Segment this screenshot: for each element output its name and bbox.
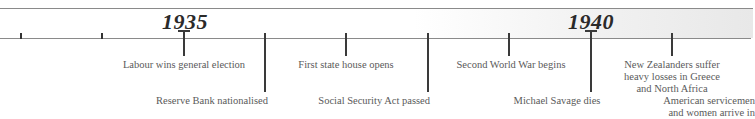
timeline-baseline [0,38,751,39]
event-label-line: New Zealanders suffer [624,59,720,71]
event-label-ww2-begins: Second World War begins [456,59,565,71]
event-label-line: and women arrive in [663,107,755,119]
timeline-tick [20,33,22,39]
timeline-header-band [0,8,753,38]
event-marker-line [590,30,592,92]
event-label-social-security-act: Social Security Act passed [318,95,430,107]
event-label-labour-wins: Labour wins general election [123,59,245,71]
timeline-tick [101,33,103,39]
event-marker-line [427,33,429,92]
event-label-nz-losses: New Zealanders suffer heavy losses in Gr… [624,59,720,95]
event-label-michael-savage-dies: Michael Savage dies [514,95,601,107]
event-label-american-servicemen: American servicemen and women arrive in [663,95,755,119]
event-label-reserve-bank: Reserve Bank nationalised [156,95,268,107]
event-label-line: American servicemen [663,95,755,107]
event-marker-line [671,33,673,56]
event-label-line: heavy losses in Greece [624,71,720,83]
event-label-first-state-house: First state house opens [298,59,393,71]
event-label-line: and North Africa [624,83,720,95]
event-marker-line [345,33,347,56]
event-marker-line [183,30,185,56]
event-marker-line [264,33,266,92]
event-marker-line [508,33,510,56]
